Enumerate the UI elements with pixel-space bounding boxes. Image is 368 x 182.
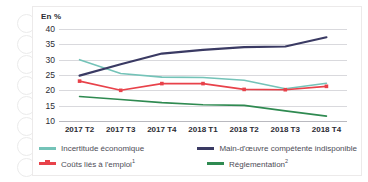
x-axis-tick-label: 2018 T1 <box>182 125 223 137</box>
legend-item-incertitude-economique: Incertitude économique <box>39 144 197 153</box>
plot-area: 40353025201510 <box>59 29 347 121</box>
legend-swatch-line-icon <box>207 162 224 165</box>
series-line <box>80 37 327 75</box>
legend-swatch-line-marker-icon <box>39 162 56 165</box>
series-marker <box>78 79 82 83</box>
y-axis-tick-label: 20 <box>46 85 55 95</box>
y-axis-tick-label: 40 <box>46 24 55 34</box>
x-axis-tick-label: 2018 T4 <box>306 125 347 137</box>
series-marker <box>160 82 164 86</box>
x-axis-tick-label: 2018 T3 <box>265 125 306 137</box>
y-axis-tick-label: 35 <box>46 39 55 49</box>
legend-row-1: Incertitude économique Main-d'œuvre comp… <box>39 141 357 156</box>
series-marker <box>119 89 123 93</box>
footnote-marker: 2 <box>285 158 288 164</box>
x-axis-tick-label: 2017 T3 <box>100 125 141 137</box>
x-axis-tick-label: 2017 T2 <box>59 125 100 137</box>
y-axis-unit-label: En % <box>41 12 61 21</box>
legend-label: Incertitude économique <box>61 144 144 153</box>
series-marker <box>325 85 329 89</box>
y-axis-tick-label: 25 <box>46 70 55 80</box>
chart-screenshot: En % 40353025201510 2017 T22017 T32017 T… <box>0 0 368 182</box>
legend-label: Main-d'œuvre compétente indisponible <box>219 144 357 153</box>
series-marker <box>201 82 205 86</box>
legend-row-2: Coûts liés à l'emploi1 Réglementation2 <box>39 156 357 171</box>
chart-card: En % 40353025201510 2017 T22017 T32017 T… <box>32 6 362 176</box>
x-axis-tick-label: 2018 T2 <box>224 125 265 137</box>
chart-legend: Incertitude économique Main-d'œuvre comp… <box>39 141 357 171</box>
y-axis-tick-label: 30 <box>46 55 55 65</box>
series-lines <box>59 29 347 121</box>
series-marker <box>242 88 246 92</box>
legend-swatch-line-icon <box>39 147 56 150</box>
legend-item-couts-lies-emploi: Coûts liés à l'emploi1 <box>39 158 207 169</box>
chart-svg <box>59 29 347 121</box>
y-axis-tick-label: 10 <box>46 116 55 126</box>
legend-item-main-doeuvre: Main-d'œuvre compétente indisponible <box>197 144 357 153</box>
x-axis-labels: 2017 T22017 T32017 T42018 T12018 T22018 … <box>59 125 347 137</box>
y-axis-tick-label: 15 <box>46 101 55 111</box>
gridline <box>59 121 347 122</box>
legend-label: Réglementation2 <box>229 158 288 169</box>
footnote-marker: 1 <box>132 158 135 164</box>
x-axis-tick-label: 2017 T4 <box>141 125 182 137</box>
series-line <box>80 96 327 116</box>
legend-item-reglementation: Réglementation2 <box>207 158 288 169</box>
series-marker <box>283 88 287 92</box>
legend-swatch-line-icon <box>197 147 214 150</box>
legend-label: Coûts liés à l'emploi1 <box>61 158 135 169</box>
